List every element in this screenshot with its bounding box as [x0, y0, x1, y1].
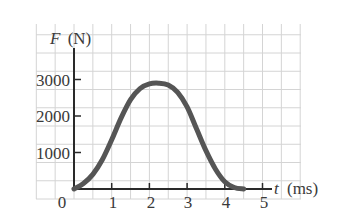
y-axis-var: F [49, 29, 61, 48]
axes [74, 48, 272, 189]
force-time-chart: F (N) 3000 2000 1000 0 1 2 3 4 5 t (ms) [0, 0, 342, 218]
x-tick-label-4: 4 [222, 193, 231, 212]
y-tick-label-2000: 2000 [36, 107, 70, 126]
y-axis-title: F (N) [49, 29, 91, 48]
x-tick-label-1: 1 [109, 193, 118, 212]
y-tick-label-3000: 3000 [36, 71, 70, 90]
x-tick-label-2: 2 [147, 193, 156, 212]
grid [36, 24, 301, 199]
y-axis-unit: (N) [68, 29, 92, 48]
x-axis-unit: (ms) [287, 179, 318, 198]
x-axis-var: t [274, 179, 280, 198]
force-curve [74, 83, 244, 189]
x-tick-label-5: 5 [260, 193, 269, 212]
x-tick-label-3: 3 [184, 193, 193, 212]
x-tick-label-0: 0 [58, 193, 67, 212]
y-tick-label-1000: 1000 [36, 144, 70, 163]
x-axis-title: t (ms) [274, 179, 318, 198]
